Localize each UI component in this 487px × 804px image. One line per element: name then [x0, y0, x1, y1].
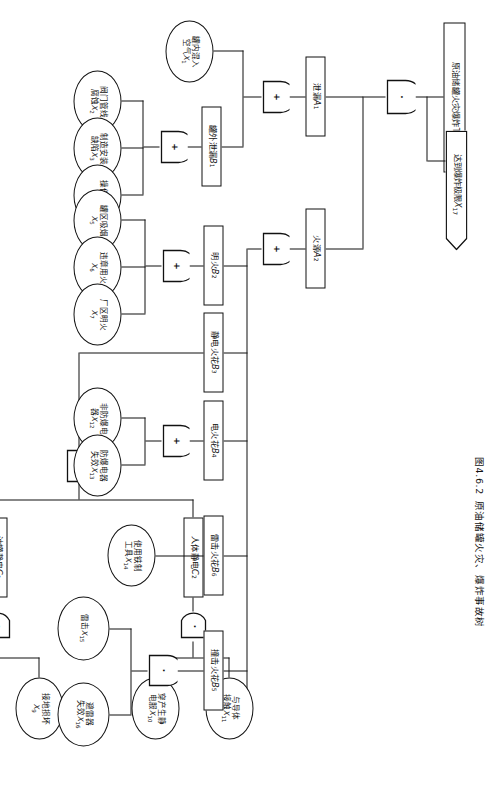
basic-event-X5-var: X [89, 216, 98, 221]
basic-event-X11-var: X [221, 710, 230, 715]
edge-G4-down [145, 265, 161, 266]
edge-G7-down [131, 670, 147, 671]
edge-bus-to-B6 [223, 555, 247, 556]
bus-G7-children [130, 628, 131, 714]
event-B5-sub: 5 [210, 687, 217, 691]
event-A2-box: 火源A2 [305, 208, 325, 288]
conditional-event-X17: 达到爆炸极限X17 [445, 130, 467, 250]
event-B4-sub: 4 [210, 453, 217, 457]
gate-G3: + [159, 129, 187, 164]
basic-event-X16-line1: 避雷器 [84, 702, 93, 726]
gate-G1-symbol: + [261, 79, 289, 114]
basic-event-X9-sub: 9 [31, 709, 37, 712]
basic-event-X10-line2: 电服 [147, 694, 156, 710]
edge-B3-to-G5 [79, 352, 203, 353]
edge-G2-down [247, 248, 261, 249]
basic-event-X13-line1: 防爆电器 [98, 449, 107, 481]
basic-event-X14-line2: 工具 [123, 541, 132, 557]
event-B2-var: B [208, 268, 217, 274]
basic-event-X13-line2: 失效 [89, 451, 98, 467]
edge-bus-to-X15 [109, 628, 131, 629]
edge-G3-down [143, 146, 159, 147]
bus-G8-children [0, 657, 39, 658]
gate-G4: + [161, 248, 189, 283]
basic-event-X15-sub: 15 [79, 635, 85, 642]
basic-event-X2-sub: 2 [89, 110, 95, 113]
gate-G8: · [0, 611, 11, 641]
event-A2-sub: 2 [312, 257, 319, 261]
basic-event-X15-var: X [79, 630, 88, 635]
edge-bus-to-X1 [213, 50, 243, 51]
basic-event-X16-sub: 16 [75, 721, 81, 728]
basic-event-X15: 雷击X15 [57, 596, 109, 660]
edge-bus-to-X7 [121, 313, 145, 314]
gate-G1: + [261, 79, 289, 114]
basic-event-X7: 厂区明火 X7 [73, 283, 121, 345]
event-B4-label: 电火花 [208, 423, 217, 448]
bus-g0-children [362, 96, 363, 248]
event-B2-box: 明火B2 [203, 225, 223, 305]
conditional-event-var: X [452, 201, 462, 207]
edge-G1-down [243, 96, 261, 97]
bus-G1-children [242, 50, 243, 146]
gate-G0-symbol: · [385, 78, 415, 115]
basic-event-X6-sub: 6 [89, 268, 95, 271]
edge-bus-to-B2 [223, 265, 247, 266]
edge-bus-to-X5 [121, 219, 145, 220]
gate-G2: + [261, 231, 289, 266]
edge-bus-to-X2 [121, 100, 143, 101]
edge-bus-to-X9 [38, 657, 39, 677]
basic-event-X9: 接地损坏 X9 [15, 677, 63, 739]
basic-event-X13-var: X [89, 467, 98, 472]
basic-event-X3-sub: 3 [89, 157, 95, 160]
edge-bus-to-A2 [325, 248, 363, 249]
edge-bus-to-X13 [121, 464, 145, 465]
edge-x17-to-g0-h [426, 96, 427, 161]
edge-B5-to-G7 [177, 670, 203, 671]
basic-event-X14-var: X [123, 557, 132, 562]
basic-event-X2-var: X [89, 105, 98, 110]
gate-G4-symbol: + [161, 248, 189, 283]
bus-G5-children [0, 499, 193, 500]
event-B2-label: 明火 [208, 252, 217, 268]
basic-event-X10-sub: 10 [147, 715, 153, 722]
edge-bus-to-X16 [109, 714, 131, 715]
event-B6-var: B [208, 567, 217, 573]
gate-G3-symbol: + [159, 129, 187, 164]
basic-event-X12-line1: 非防爆电 [98, 402, 107, 434]
basic-event-X16: 避雷器 失效X16 [57, 682, 109, 746]
event-B1-sub: 1 [208, 163, 215, 167]
event-B4-var: B [208, 447, 217, 453]
basic-event-X16-line2: 失效 [75, 700, 84, 716]
caption-number: 图4.6.2 [474, 457, 485, 495]
edge-G9-down [192, 641, 193, 657]
basic-event-X9-var: X [31, 704, 40, 709]
basic-event-X11-line1: 与导体 [230, 696, 239, 720]
event-B3-box: 静电火花B3 [203, 312, 223, 392]
basic-event-X2-line2: 腐蚀 [89, 89, 98, 105]
gate-G6-symbol: + [161, 423, 189, 458]
basic-event-X14: 使用铁制 工具X14 [107, 524, 155, 586]
edge-bus-to-X12 [121, 417, 145, 418]
event-B3-label: 静电火花 [208, 331, 217, 364]
gate-G6: + [161, 423, 189, 458]
basic-event-X14-sub: 14 [123, 562, 129, 569]
edge-bus-to-X6 [121, 266, 145, 267]
top-event-label: 原油储罐火灾爆炸T [449, 62, 458, 133]
edge-G6-down [145, 440, 161, 441]
event-A1-label: 泄漏 [310, 83, 319, 99]
edge-B6-to-X14 [155, 555, 203, 556]
basic-event-X1-line2: 空气 [181, 39, 190, 55]
basic-event-X10-var: X [147, 710, 156, 715]
basic-event-X12-sub: 12 [89, 421, 95, 428]
edge-bus-to-X11 [228, 657, 229, 677]
basic-event-X11-sub: 11 [221, 715, 227, 722]
gate-G7-symbol: · [147, 653, 177, 687]
basic-event-X6-line1: 违章用火 [98, 251, 107, 283]
edge-bus-to-B5 [223, 670, 247, 671]
bus-G2-children [246, 248, 247, 724]
edge-bus-to-A1 [325, 96, 363, 97]
basic-event-X1-sub: 1 [181, 60, 187, 63]
